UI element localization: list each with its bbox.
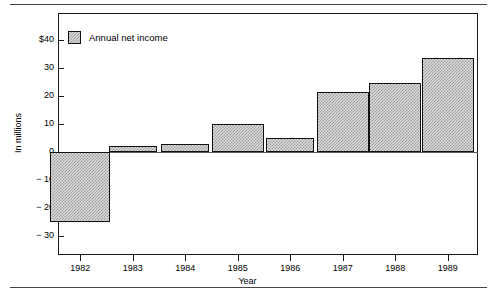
x-axis-tick-label: 1987: [321, 263, 365, 273]
x-axis-tick-label: 1989: [426, 263, 470, 273]
y-axis-tick: [58, 124, 64, 125]
legend-label-annual-net-income: Annual net income: [89, 32, 168, 43]
x-axis-tick-label: 1983: [111, 263, 155, 273]
x-axis-tick: [448, 255, 449, 261]
y-axis-title: In millions: [13, 98, 23, 168]
bar-1986: [266, 138, 314, 152]
y-axis-tick-label: 30: [14, 63, 54, 72]
x-axis-tick: [80, 255, 81, 261]
top-rule: [10, 4, 487, 5]
y-axis-tick-label: − 30: [14, 231, 54, 240]
x-axis-tick: [290, 255, 291, 261]
legend-swatch-annual-net-income: [68, 31, 81, 44]
x-axis-tick-label: 1984: [163, 263, 207, 273]
bar-1985: [212, 124, 264, 152]
x-axis-tick: [395, 255, 396, 261]
x-axis-title: Year: [0, 276, 495, 286]
x-axis-tick-label: 1988: [373, 263, 417, 273]
chart-legend: Annual net income: [68, 31, 168, 44]
y-axis-tick: [58, 236, 64, 237]
x-axis-tick: [238, 255, 239, 261]
y-axis-tick-label: − 10: [14, 175, 54, 184]
y-axis-tick-label: − 20: [14, 203, 54, 212]
x-axis-tick-label: 1982: [58, 263, 102, 273]
x-axis-tick-label: 1986: [268, 263, 312, 273]
bottom-rule: [10, 287, 487, 288]
x-axis-tick-label: 1985: [216, 263, 260, 273]
bar-1983: [109, 146, 157, 152]
x-axis-tick: [185, 255, 186, 261]
y-axis-tick-label: $40: [14, 35, 54, 44]
bar-1982: [50, 152, 110, 222]
zero-baseline: [58, 152, 478, 153]
y-axis-tick: [58, 96, 64, 97]
bar-1987: [317, 92, 369, 152]
bar-1984: [161, 144, 209, 152]
x-axis-tick: [133, 255, 134, 261]
bar-1988: [369, 83, 421, 152]
y-axis-tick: [58, 40, 64, 41]
y-axis-tick: [58, 68, 64, 69]
x-axis-tick: [343, 255, 344, 261]
plot-area: [58, 13, 478, 255]
bar-1989: [422, 58, 474, 152]
